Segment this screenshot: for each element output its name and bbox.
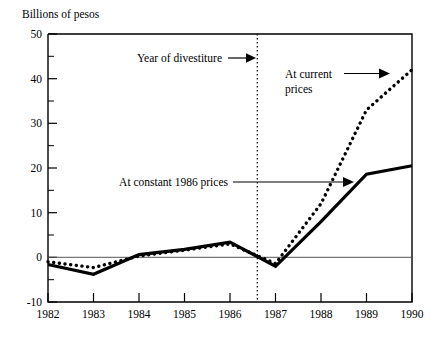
annotation-year-of-divestiture: Year of divestiture (137, 52, 256, 64)
x-label-1988: 1988 (310, 308, 333, 320)
annotation-at-current-prices: At current prices (285, 68, 390, 96)
y-label-10: 10 (31, 207, 43, 219)
y-label-20: 20 (31, 162, 43, 174)
y-label-neg10: -10 (27, 296, 43, 308)
x-label-1982: 1982 (37, 308, 60, 320)
x-label-1983: 1983 (82, 308, 105, 320)
annotation-at-constant-1986-prices-arrow-head (343, 177, 354, 187)
series-line-at-current-prices (48, 70, 412, 268)
y-label-0: 0 (36, 251, 42, 263)
line-chart: Billions of pesos 50 40 30 20 (0, 0, 435, 340)
y-label-30: 30 (31, 117, 43, 129)
plot-frame (48, 34, 412, 302)
annotation-at-constant-1986-prices: At constant 1986 prices (119, 176, 354, 189)
y-label-40: 40 (31, 73, 43, 85)
annotation-at-current-prices-label-line1: At current (285, 68, 333, 80)
x-label-1989: 1989 (355, 308, 378, 320)
x-axis-ticks (48, 293, 412, 302)
annotation-at-current-prices-arrow-head (379, 68, 390, 78)
chart-container: Billions of pesos 50 40 30 20 (0, 0, 435, 340)
y-axis-tick-labels: 50 40 30 20 10 0 -10 (27, 28, 43, 308)
x-axis-tick-labels: 1982 1983 1984 1985 1986 1987 1988 1989 … (37, 308, 424, 320)
series-line-at-constant-1986-prices (48, 166, 412, 275)
annotation-year-of-divestiture-label: Year of divestiture (137, 52, 222, 64)
y-axis-title: Billions of pesos (22, 8, 100, 21)
y-label-50: 50 (31, 28, 43, 40)
x-label-1984: 1984 (128, 308, 151, 320)
annotation-at-current-prices-label-line2: prices (285, 83, 313, 96)
annotation-year-of-divestiture-arrow-head (246, 53, 256, 63)
x-label-1986: 1986 (219, 308, 242, 320)
x-label-1990: 1990 (401, 308, 424, 320)
frame-border (48, 34, 412, 302)
annotation-at-constant-1986-prices-label: At constant 1986 prices (119, 176, 228, 189)
x-label-1985: 1985 (173, 308, 196, 320)
x-label-1987: 1987 (264, 308, 287, 320)
